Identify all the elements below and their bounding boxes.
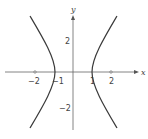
y-axis-arrow-icon: [71, 15, 75, 20]
x-tick-label-2: 2: [109, 77, 114, 86]
x-axis-arrow-icon: [134, 70, 139, 74]
y-tick-label-minus-2: −2: [59, 104, 71, 113]
x-axis-label: x: [141, 68, 146, 77]
x-tick-label-minus-2: −2: [28, 77, 40, 86]
y-tick-label-2: 2: [65, 37, 70, 46]
hyperbola-chart: x y −2 −1 1 2 2 −2: [0, 0, 148, 139]
y-axis-label: y: [70, 5, 76, 14]
